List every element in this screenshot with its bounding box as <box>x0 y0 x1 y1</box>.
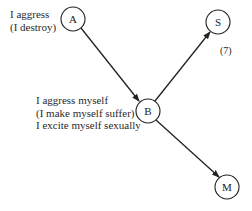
caption-b-line-2: (I make myself suffer) <box>36 107 141 120</box>
caption-a-line-1: I aggress <box>10 8 56 21</box>
edge-a-to-b <box>81 28 139 101</box>
node-a: A <box>61 7 85 31</box>
node-a-caption: I aggress (I destroy) <box>10 8 56 33</box>
node-m: M <box>215 175 239 199</box>
caption-a-line-2: (I destroy) <box>10 21 56 34</box>
node-b-label: B <box>144 105 151 117</box>
node-m-label: M <box>222 181 232 193</box>
edge-b-to-m <box>156 120 219 177</box>
caption-b-line-1: I aggress myself <box>36 94 141 107</box>
node-s: S <box>206 10 230 34</box>
figure-number: (7) <box>220 45 232 58</box>
node-s-label: S <box>215 16 221 28</box>
node-a-label: A <box>69 13 77 25</box>
caption-b-line-3: I excite myself sexually <box>36 119 141 132</box>
edge-b-to-s <box>155 32 210 101</box>
node-b-caption: I aggress myself (I make myself suffer) … <box>36 94 141 132</box>
